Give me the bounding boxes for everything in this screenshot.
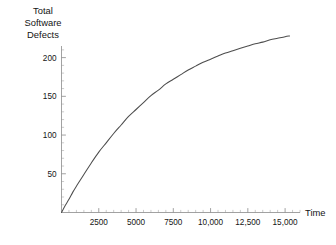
y-tick-label: 150	[43, 92, 57, 101]
x-axis-title: Time	[305, 207, 325, 218]
x-tick-label: 12,500	[235, 218, 260, 227]
chart-canvas: 50100150200 25005000750010,00012,50015,0…	[0, 0, 336, 245]
x-tick-label: 7500	[164, 218, 183, 227]
x-tick-label: 5000	[127, 218, 146, 227]
y-tick-label: 100	[43, 131, 57, 140]
defect-growth-chart: 50100150200 25005000750010,00012,50015,0…	[0, 0, 336, 245]
y-tick-label: 200	[43, 54, 57, 63]
x-tick-label: 10,000	[198, 218, 223, 227]
x-tick-label: 2500	[90, 218, 109, 227]
y-axis-title-line-2: Software	[25, 17, 62, 28]
y-axis-title-line-1: Total	[33, 5, 53, 16]
y-tick-label: 50	[47, 170, 57, 179]
y-axis-title-line-3: Defects	[27, 29, 59, 40]
x-tick-label: 15,000	[273, 218, 298, 227]
